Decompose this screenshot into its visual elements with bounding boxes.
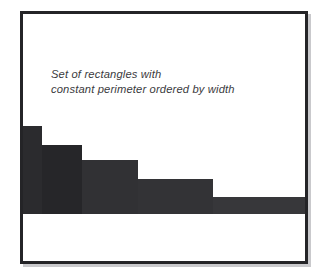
plot-area: Set of rectangles with constant perimete… [23, 14, 305, 261]
bar-rectangle [82, 160, 138, 214]
bar-series [23, 14, 305, 214]
figure-container: Set of rectangles with constant perimete… [0, 0, 322, 279]
bar-rectangle [213, 197, 305, 214]
bar-rectangle [138, 179, 213, 214]
bar-rectangle [23, 126, 42, 214]
bar-rectangle [42, 145, 82, 214]
